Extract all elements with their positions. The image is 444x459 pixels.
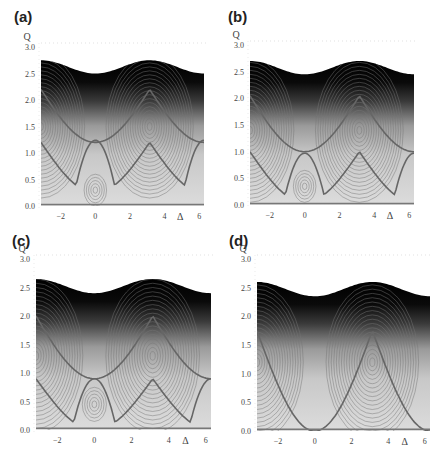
y-tick-label: 1.0 [25,149,35,158]
y-axis-label: Q [18,243,26,254]
x-tick-label: −2 [56,212,65,221]
x-tick-label: 2 [337,211,341,220]
y-tick-label: 2.5 [25,70,35,79]
y-tick-label: 1.5 [241,341,251,350]
panel-d: 0.00.51.01.52.02.53.0Q−20246Δ [211,243,432,447]
x-tick-label: 2 [129,436,133,445]
x-axis-label: Δ [401,436,408,447]
x-tick-label: 0 [313,437,317,446]
x-axis-label: Δ [182,435,189,446]
panel-c: 0.00.51.01.52.02.53.0Q−20246Δ [0,243,213,446]
x-tick-label: 6 [423,437,427,446]
y-tick-label: 3.0 [25,43,35,52]
x-tick-label: 0 [93,212,97,221]
y-tick-label: 3.0 [234,41,244,50]
x-tick-label: 2 [349,437,353,446]
x-axis-label: Δ [177,211,184,222]
y-tick-label: 1.0 [234,148,244,157]
y-axis-label: Q [232,29,240,40]
y-tick-label: 2.0 [20,312,30,321]
panel-b: 0.00.51.01.52.02.53.0Q−20246Δ [206,29,416,221]
y-tick-label: 0.0 [241,427,251,436]
x-tick-label: −2 [53,436,62,445]
y-tick-label: 1.0 [20,369,30,378]
x-tick-label: 0 [92,436,96,445]
y-tick-label: 3.0 [241,255,251,264]
y-tick-label: 0.5 [241,398,251,407]
x-tick-label: 4 [372,211,376,220]
x-tick-label: 4 [167,436,171,445]
y-tick-label: 0.0 [234,201,244,210]
x-tick-label: 6 [204,436,208,445]
density-region [257,282,430,431]
y-tick-label: 1.5 [25,123,35,132]
x-tick-label: 6 [407,211,411,220]
y-tick-label: 3.0 [20,255,30,264]
y-tick-label: 0.0 [20,426,30,435]
y-tick-label: 2.5 [241,284,251,293]
x-tick-label: 4 [163,212,167,221]
y-axis-label: Q [239,243,247,254]
y-tick-label: 0.0 [25,202,35,211]
panel-a: 0.00.51.01.52.02.53.0Q−20246Δ [0,31,206,222]
x-tick-label: 6 [197,212,201,221]
x-tick-label: −2 [274,437,283,446]
y-tick-label: 2.0 [241,312,251,321]
y-tick-label: 2.0 [25,96,35,105]
x-tick-label: 2 [128,212,132,221]
x-tick-label: −2 [266,211,275,220]
y-tick-label: 1.5 [234,121,244,130]
y-tick-label: 2.5 [234,68,244,77]
y-tick-label: 2.0 [234,94,244,103]
y-tick-label: 0.5 [20,398,30,407]
x-axis-label: Δ [387,210,394,221]
y-tick-label: 0.5 [25,176,35,185]
y-axis-label: Q [23,31,31,42]
y-tick-label: 1.0 [241,370,251,379]
y-tick-label: 2.5 [20,284,30,293]
y-tick-label: 0.5 [234,174,244,183]
x-tick-label: 0 [303,211,307,220]
x-tick-label: 4 [386,437,390,446]
plots-canvas: 0.00.51.01.52.02.53.0Q−20246Δ0.00.51.01.… [0,0,444,459]
y-tick-label: 1.5 [20,341,30,350]
